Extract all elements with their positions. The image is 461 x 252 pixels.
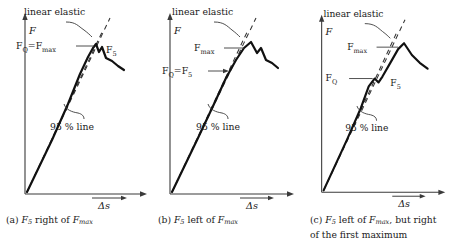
x-axis-label: Δs <box>397 198 410 209</box>
panel-b-plot: F Δs linear elastic 95 % line Fmax <box>152 0 305 212</box>
caption-b-prefix: (b) <box>158 214 174 225</box>
caption-c-prefix: (c) <box>310 214 325 225</box>
caption-a: (a) F5 right of Fmax <box>6 214 156 229</box>
y-axis-label: F <box>28 25 37 36</box>
caption-a-body: F5 <box>22 214 33 225</box>
fq-label-group: FQ <box>326 73 373 86</box>
fq-f5-label-group: FQ=F5 <box>162 65 229 79</box>
linear-elastic-label: linear elastic <box>172 6 233 17</box>
linear-elastic-label: linear elastic <box>24 6 85 17</box>
fmax-label: Fmax <box>194 42 215 56</box>
fq-fmax-label: FQ=Fmax <box>16 40 56 54</box>
panel-a: F Δs linear elastic 95 % line FQ=Fm <box>0 0 153 252</box>
linear-elastic-leader <box>365 24 391 39</box>
ninety-five-label: 95 % line <box>196 121 241 132</box>
force-displacement-curve <box>324 43 428 190</box>
fmax-label: Fmax <box>347 42 367 55</box>
fq-fmax-label-group: FQ=Fmax <box>16 40 94 54</box>
x-axis-label-group: Δs <box>240 196 274 211</box>
caption-c: (c) F5 left of Fmax, but rightof the fir… <box>310 214 461 241</box>
y-axis <box>167 13 172 194</box>
x-axis-label: Δs <box>97 200 110 211</box>
panel-c-plot: F Δs linear elastic 95 % line Fmax FQ <box>304 0 457 212</box>
x-axis <box>322 190 446 195</box>
x-axis-label: Δs <box>245 200 258 211</box>
y-axis-label: F <box>325 26 333 37</box>
fmax-label-group: Fmax <box>347 42 398 55</box>
f5-label: F5 <box>390 78 400 91</box>
x-axis-label-group: Δs <box>92 196 127 211</box>
x-axis <box>170 191 294 196</box>
ninety-five-label: 95 % line <box>50 121 95 132</box>
x-axis-label-group: Δs <box>392 194 425 209</box>
y-axis-label: F <box>173 25 182 36</box>
f5-label: F5 <box>106 44 117 58</box>
caption-b: (b) F5 left of Fmax <box>158 214 308 229</box>
linear-elastic-leader <box>214 22 240 37</box>
panel-b: F Δs linear elastic 95 % line Fmax <box>152 0 305 252</box>
caption-a-prefix: (a) <box>6 214 22 225</box>
linear-elastic-leader <box>66 22 92 37</box>
panel-c: F Δs linear elastic 95 % line Fmax FQ <box>304 0 457 252</box>
figure-container: F Δs linear elastic 95 % line FQ=Fm <box>0 0 461 252</box>
x-axis <box>25 191 147 196</box>
y-axis <box>319 15 324 193</box>
fmax-label-group: Fmax <box>194 42 244 56</box>
panel-a-plot: F Δs linear elastic 95 % line FQ=Fm <box>0 0 153 212</box>
linear-elastic-label: linear elastic <box>324 9 384 19</box>
fq-f5-label: FQ=F5 <box>162 65 192 79</box>
force-displacement-curve <box>27 44 124 192</box>
ninety-five-label: 95 % line <box>345 124 388 134</box>
fq-label: FQ <box>326 73 338 86</box>
